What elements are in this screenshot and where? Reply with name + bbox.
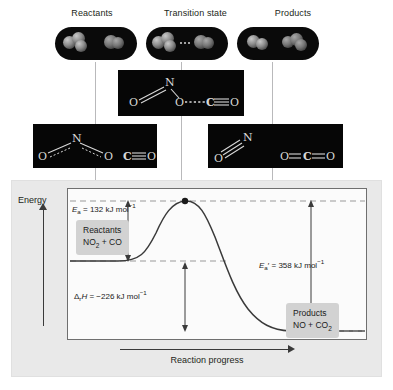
- atom-label-O: O: [214, 152, 223, 165]
- label-activation-energy-reverse: Ea′ = 358 kJ mol−1: [259, 258, 324, 272]
- atom-label-O: O: [230, 96, 239, 109]
- atom-label-C: C: [206, 96, 215, 109]
- label-ea-exponent: −1: [129, 202, 136, 209]
- label-eaprime-units: kJ mol: [294, 261, 317, 270]
- label-dh-value: −226: [96, 292, 114, 301]
- space-filling-panel-reactants: [55, 27, 137, 60]
- y-axis-line: [43, 208, 44, 326]
- atom-label-O: O: [104, 150, 113, 163]
- x-axis-arrowhead: [288, 345, 295, 353]
- atom-label-O: O: [175, 96, 184, 109]
- label-ea-value: 132: [90, 205, 103, 214]
- atom-label-C: C: [123, 150, 132, 163]
- label-ea-equals: =: [81, 205, 90, 214]
- transition-state-marker: [182, 198, 188, 204]
- formula-pre: NO: [83, 237, 96, 247]
- label-dh-units: kJ mol: [117, 292, 140, 301]
- atom-label-O: O: [129, 96, 138, 109]
- formula-sub: 2: [328, 325, 332, 332]
- label-activation-energy-forward: Ea = 132 kJ mol−1: [72, 202, 136, 216]
- lewis-panel-reactants: O N O C O: [33, 124, 157, 168]
- x-axis-line: [120, 349, 290, 350]
- formula-pre: NO + CO: [293, 320, 328, 330]
- arrow-enthalpy-change: [182, 262, 188, 332]
- atom-label-O: O: [147, 150, 156, 163]
- label-dh-equals: =: [87, 292, 96, 301]
- species-box-products-heading: Products: [293, 307, 332, 319]
- lewis-panel-products: O N O C O: [208, 124, 343, 168]
- species-box-products-formula: NO + CO2: [293, 319, 332, 333]
- species-box-reactants-heading: Reactants: [83, 224, 122, 236]
- atom-label-O: O: [38, 150, 47, 163]
- lewis-structure-reactants: O N O C O: [33, 124, 157, 168]
- label-ea-units: kJ mol: [106, 205, 129, 214]
- transition-contact-dots: [180, 42, 190, 44]
- column-heading-products: Products: [253, 8, 333, 18]
- column-heading-transition-state: Transition state: [143, 8, 248, 18]
- lewis-structure-products: O N O C O: [208, 124, 343, 168]
- energy-profile-chart: Energy: [12, 181, 381, 376]
- atom-label-N: N: [165, 76, 175, 89]
- formula-post: + CO: [99, 237, 121, 247]
- column-heading-reactants: Reactants: [52, 8, 132, 18]
- space-filling-panel-transition-state: [146, 27, 228, 60]
- atom-label-N: N: [243, 131, 253, 144]
- atom-label-C: C: [303, 150, 312, 163]
- label-dh-exponent: −1: [140, 289, 147, 296]
- species-box-products: Products NO + CO2: [286, 303, 339, 338]
- species-box-reactants: Reactants NO2 + CO: [76, 220, 129, 255]
- lewis-panel-transition-state: O N O C O: [118, 70, 244, 116]
- space-filling-panel-products: [237, 27, 319, 60]
- atom-label-O: O: [280, 150, 289, 163]
- species-box-reactants-formula: NO2 + CO: [83, 236, 122, 250]
- x-axis-label: Reaction progress: [122, 355, 292, 365]
- lewis-structure-transition-state: O N O C O: [118, 70, 244, 116]
- atom-label-O: O: [326, 150, 335, 163]
- label-enthalpy-change: ΔrH = −226 kJ mol−1: [74, 289, 147, 303]
- label-eaprime-value: 358: [278, 261, 291, 270]
- label-eaprime-exponent: −1: [317, 258, 324, 265]
